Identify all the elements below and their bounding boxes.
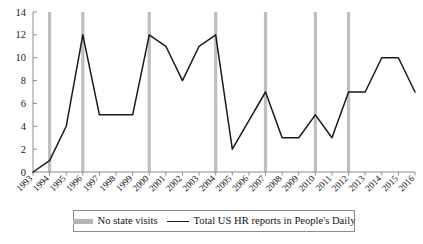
y-axis-tick-label: 4 [21,121,27,132]
y-axis-tick-label: 0 [21,167,26,178]
x-axis-tick-label: 2005 [214,173,234,193]
x-axis-tick-label: 2006 [230,173,250,193]
x-axis-tick-label: 2012 [330,173,350,193]
x-axis-tick-label: 2003 [180,173,200,193]
y-axis-tick-label: 2 [21,144,26,155]
x-axis-tick-label: 2004 [197,173,217,193]
y-axis-tick-label: 6 [21,98,26,109]
y-axis-tick-label: 14 [16,7,27,18]
x-axis-tick-label: 2015 [380,173,400,193]
y-axis-group [33,12,37,172]
x-axis-tick-label: 1995 [48,173,68,193]
no-state-visit-marker [314,12,317,172]
x-axis-tick-label: 1998 [97,173,117,193]
hr-reports-swatch-icon [167,221,189,222]
x-axis-tick-label: 2007 [247,173,267,193]
x-axis-tick-label: 2016 [396,173,416,193]
vertical-marker-group [48,12,350,172]
legend-label-hr-reports: Total US HR reports in People's Daily [194,216,356,227]
y-axis-tick-label: 12 [16,29,27,40]
x-axis-tick-label: 2009 [280,173,300,193]
data-series-line [33,35,415,172]
x-axis-tick-label: 2002 [164,173,184,193]
chart-figure: 1993199419951996199719981999200020012002… [0,0,423,244]
x-tick-label-group: 1993199419951996199719981999200020012002… [14,173,416,193]
x-axis-tick-label: 2011 [314,173,334,193]
x-axis-tick-label: 1999 [114,173,134,193]
no-state-visits-swatch-icon [73,219,93,224]
data-line-group [33,35,415,172]
x-axis-tick-label: 2013 [347,173,367,193]
x-axis-tick-label: 2008 [263,173,283,193]
chart-legend: No state visits Total US HR reports in P… [73,210,355,232]
x-axis-tick-label: 2014 [363,173,383,193]
legend-entry-hr-reports: Total US HR reports in People's Daily [167,216,356,227]
x-axis-tick-label: 2010 [297,173,317,193]
x-axis-tick-label: 1997 [81,173,101,193]
no-state-visit-marker [48,12,51,172]
x-axis-tick-label: 1996 [64,173,84,193]
y-axis-tick-label: 10 [16,52,27,63]
line-chart-svg: 1993199419951996199719981999200020012002… [0,0,423,200]
x-axis-tick-label: 2000 [131,173,151,193]
y-axis-tick-label: 8 [21,75,26,86]
y-tick-label-group: 02468101214 [16,7,27,178]
x-axis-tick-label: 1994 [31,173,51,193]
legend-entry-no-state-visits: No state visits [73,216,158,227]
plot-area: 1993199419951996199719981999200020012002… [0,0,423,200]
x-axis-tick-label: 2001 [147,173,167,193]
legend-label-no-state-visits: No state visits [98,216,158,227]
